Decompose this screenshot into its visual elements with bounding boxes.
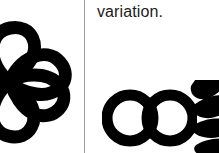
petal-3-icon xyxy=(192,119,219,138)
right-figure-panel: variation. xyxy=(85,0,219,153)
petal-2-icon xyxy=(192,95,219,118)
caption-text: variation. xyxy=(97,2,163,22)
left-figure-panel xyxy=(0,0,84,153)
petal-cluster-graphic xyxy=(189,80,219,153)
petal-cluster-group xyxy=(189,80,219,153)
screenshot-canvas: variation. xyxy=(0,0,219,153)
double-ring-group xyxy=(102,85,197,147)
clover-petal-logo xyxy=(0,12,72,153)
double-ring-graphic xyxy=(102,85,197,147)
petal-4-icon xyxy=(194,139,219,153)
double-ring-petal-logo xyxy=(85,80,219,153)
clover-petal-logo-graphic xyxy=(0,12,72,153)
